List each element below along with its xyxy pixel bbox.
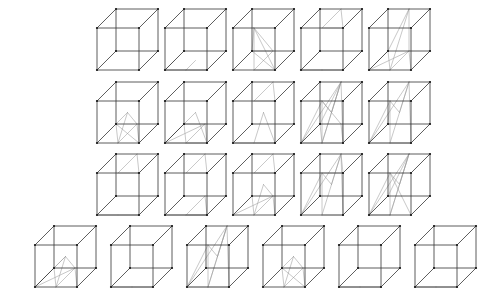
cube-diagram	[262, 225, 325, 288]
cube-vertex-dot	[251, 81, 253, 83]
cube-diagram	[368, 81, 431, 144]
cube-inner-line	[301, 101, 322, 143]
cube-vertex-dot	[115, 195, 117, 197]
cube-inner-line	[118, 154, 137, 173]
cube-diagram	[96, 81, 159, 144]
cube-edge	[369, 51, 388, 70]
cube-vertex-dot	[387, 50, 389, 52]
cube-edge	[301, 154, 320, 173]
cube-diagram	[300, 8, 363, 71]
cube-vertex-dot	[164, 214, 166, 216]
cube-edge	[97, 9, 116, 28]
cube-edge	[165, 196, 184, 215]
cube-edge	[165, 9, 184, 28]
cube-vertex-dot	[368, 27, 370, 29]
cube-vertex-dot	[183, 123, 185, 125]
cube-vertex-dot	[338, 244, 340, 246]
cube-edge	[275, 124, 294, 143]
cube-edge	[77, 226, 96, 245]
cube-inner-line	[252, 51, 275, 70]
cube-vertex-dot	[361, 50, 363, 52]
cube-vertex-dot	[225, 123, 227, 125]
cube-edge	[457, 226, 476, 245]
cube-inner-line	[254, 82, 273, 101]
cube-inner-line	[273, 82, 275, 101]
cube-vertex-dot	[319, 50, 321, 52]
cube-vertex-dot	[342, 27, 344, 29]
cube-inner-line	[208, 226, 227, 287]
cube-diagram	[164, 8, 227, 71]
cube-edge	[111, 226, 130, 245]
cube-edge	[97, 154, 116, 173]
cube-vertex-dot	[274, 214, 276, 216]
cube-inner-line	[341, 9, 343, 28]
cube-edge	[35, 226, 54, 245]
cube-vertex-dot	[157, 8, 159, 10]
cube-inner-line	[187, 245, 208, 287]
cube-edge	[301, 124, 320, 143]
cube-edge	[233, 154, 252, 173]
cube-inner-line	[116, 124, 139, 143]
cube-vertex-dot	[410, 142, 412, 144]
cube-edge	[275, 196, 294, 215]
cube-edge	[381, 268, 400, 287]
cube-edge	[233, 51, 252, 70]
cube-edge	[301, 9, 320, 28]
cube-vertex-dot	[96, 27, 98, 29]
cube-vertex-dot	[274, 100, 276, 102]
cube-vertex-dot	[319, 81, 321, 83]
cube-vertex-dot	[342, 100, 344, 102]
cube-vertex-dot	[293, 195, 295, 197]
cube-edge	[207, 124, 226, 143]
cube-vertex-dot	[304, 286, 306, 288]
cube-vertex-dot	[274, 69, 276, 71]
cube-vertex-dot	[186, 244, 188, 246]
cube-inner-line	[137, 154, 139, 173]
cube-vertex-dot	[95, 225, 97, 227]
cube-vertex-dot	[293, 81, 295, 83]
cube-inner-line	[282, 268, 284, 287]
cube-edge	[97, 82, 116, 101]
cube-vertex-dot	[319, 8, 321, 10]
cube-diagram	[232, 153, 295, 216]
cube-edge	[339, 226, 358, 245]
cube-vertex-dot	[323, 225, 325, 227]
cube-vertex-dot	[274, 27, 276, 29]
cube-vertex-dot	[96, 142, 98, 144]
cube-diagram	[96, 8, 159, 71]
cube-vertex-dot	[361, 195, 363, 197]
cube-vertex-dot	[152, 244, 154, 246]
cube-vertex-dot	[110, 286, 112, 288]
cube-vertex-dot	[95, 267, 97, 269]
cube-vertex-dot	[129, 267, 131, 269]
cube-inner-line	[400, 82, 410, 113]
cube-diagram	[232, 81, 295, 144]
cube-vertex-dot	[342, 142, 344, 144]
cube-inner-line	[186, 196, 205, 215]
cube-vertex-dot	[262, 286, 264, 288]
cube-vertex-dot	[475, 267, 477, 269]
cube-vertex-dot	[115, 123, 117, 125]
cube-vertex-dot	[157, 195, 159, 197]
cube-edge	[233, 124, 252, 143]
cube-vertex-dot	[399, 267, 401, 269]
cube-vertex-dot	[387, 81, 389, 83]
cube-edge	[207, 9, 226, 28]
cube-vertex-dot	[76, 286, 78, 288]
cube-edge	[343, 51, 362, 70]
cube-vertex-dot	[183, 50, 185, 52]
cube-vertex-dot	[247, 267, 249, 269]
cube-vertex-dot	[53, 225, 55, 227]
cube-inner-line	[320, 82, 341, 124]
cube-vertex-dot	[115, 50, 117, 52]
cube-inner-line	[186, 61, 196, 71]
cube-vertex-dot	[34, 244, 36, 246]
cube-vertex-dot	[138, 142, 140, 144]
cube-vertex-dot	[157, 123, 159, 125]
cube-vertex-dot	[225, 50, 227, 52]
cube-vertex-dot	[138, 214, 140, 216]
cube-diagram	[34, 225, 97, 288]
cube-edge	[139, 51, 158, 70]
cube-vertex-dot	[410, 172, 412, 174]
cube-vertex-dot	[387, 153, 389, 155]
